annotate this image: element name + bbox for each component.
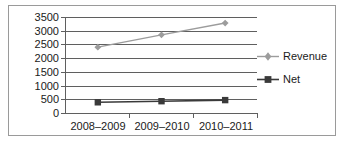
chart-legend: Revenue Net — [257, 49, 333, 95]
data-point-marker — [94, 44, 101, 51]
data-point-marker — [222, 20, 229, 27]
legend-label-net: Net — [283, 73, 300, 86]
legend-entry-revenue[interactable]: Revenue — [257, 49, 333, 64]
square-marker-icon — [257, 72, 279, 87]
data-point-marker — [158, 98, 164, 104]
data-point-marker — [95, 99, 101, 105]
chart-frame: 3500 3000 2500 2000 1500 1000 500 0 2008… — [8, 5, 336, 136]
diamond-marker-icon — [257, 49, 279, 64]
legend-label-revenue: Revenue — [283, 50, 327, 63]
net-marker-group — [95, 97, 229, 106]
data-point-marker — [222, 97, 228, 103]
series-net — [95, 97, 229, 106]
data-point-marker — [158, 31, 165, 38]
legend-entry-net[interactable]: Net — [257, 72, 333, 87]
series-revenue — [94, 20, 228, 51]
revenue-marker-group — [94, 20, 228, 51]
